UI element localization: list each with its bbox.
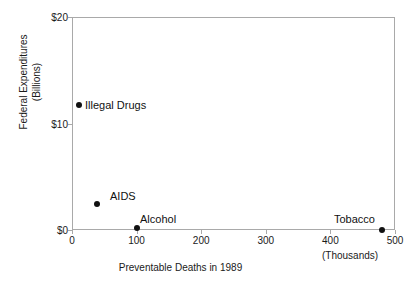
data-label-illegal-drugs: Illegal Drugs [85,99,146,111]
x-tick-label-200: 200 [193,235,210,246]
x-tick-mark-500 [395,230,396,234]
x-tick-mark-300 [266,230,267,234]
y-axis-title-line2: (Billions) [30,63,43,101]
data-point-alcohol [134,225,140,231]
scatter-chart: $0 $10 $20 0 100 200 300 400 500 Illegal… [0,0,417,291]
data-label-alcohol: Alcohol [140,213,176,225]
y-tick-label-10: $10 [51,118,68,129]
x-axis-title: Preventable Deaths in 1989 [0,262,417,273]
y-tick-label-0: $0 [57,225,68,236]
y-axis-title: Federal Expenditures (Billions) [8,7,52,157]
data-label-tobacco: Tobacco [334,213,375,225]
data-point-illegal-drugs [76,102,82,108]
x-tick-mark-200 [201,230,202,234]
y-axis-title-line1: Federal Expenditures [17,34,30,129]
x-tick-label-100: 100 [128,235,145,246]
x-tick-label-500: 500 [387,235,404,246]
y-tick-mark-20 [68,17,72,18]
x-tick-mark-0 [72,230,73,234]
clipped-title-remnant [248,0,378,7]
y-tick-mark-10 [68,124,72,125]
data-point-tobacco [379,227,385,233]
x-tick-mark-400 [330,230,331,234]
x-tick-label-400: 400 [322,235,339,246]
x-tick-label-0: 0 [69,235,75,246]
y-tick-label-20: $20 [51,12,68,23]
data-label-aids: AIDS [110,190,136,202]
x-axis-units-label: (Thousands) [322,250,378,261]
x-tick-label-300: 300 [257,235,274,246]
